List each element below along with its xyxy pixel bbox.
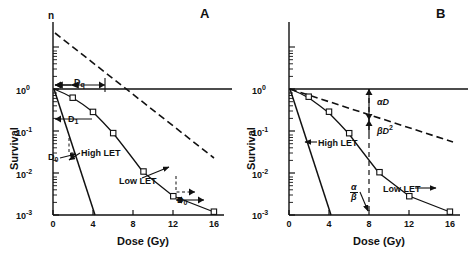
panel-a-high-let-curve xyxy=(54,89,95,215)
panel-a-low-let-markers xyxy=(70,95,217,214)
panel-b-high-let-curve xyxy=(290,89,331,215)
panel-b: B Survival Dose (Gy) 100 10-1 10-2 10-3 … xyxy=(237,0,474,256)
panel-b-alpha-d-arrow xyxy=(366,89,373,120)
panel-a-d0-low-marker xyxy=(176,176,204,204)
panel-a-d1-marker xyxy=(55,116,92,123)
panel-a-plot xyxy=(0,0,237,256)
panel-b-alpha-beta-leader xyxy=(360,192,368,211)
panel-a: A n Survival Dose (Gy) 100 10-1 10-2 10-… xyxy=(0,0,237,256)
panel-b-plot xyxy=(237,0,474,256)
panel-b-low-let-markers xyxy=(306,94,453,214)
figure-container: A n Survival Dose (Gy) 100 10-1 10-2 10-… xyxy=(0,0,474,256)
panel-b-low-let-curve xyxy=(290,89,450,212)
panel-a-dq-arrow xyxy=(55,82,105,89)
panel-b-beta-d2-arrow xyxy=(366,120,373,134)
panel-b-axes xyxy=(289,22,460,215)
panel-a-extrapolation-line xyxy=(55,33,214,158)
